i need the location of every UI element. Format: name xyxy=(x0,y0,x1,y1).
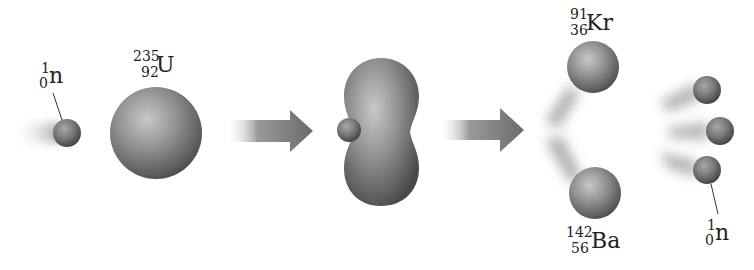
krypton-nucleus xyxy=(567,41,619,93)
product-trails xyxy=(545,82,708,184)
reaction-arrow-2-icon xyxy=(440,108,524,152)
reaction-arrow-1-icon xyxy=(228,110,313,152)
barium-atomic-number: 56 xyxy=(571,241,589,255)
barium-mass-number: 142 xyxy=(566,225,593,239)
barium-symbol: Ba xyxy=(591,230,620,252)
uranium-nucleus xyxy=(110,87,202,179)
uranium-label: 235 92 U xyxy=(133,48,183,80)
diagram-canvas xyxy=(0,0,754,270)
barium-nucleus xyxy=(569,167,621,219)
neutron-out-1 xyxy=(693,76,721,104)
neutron-in-label: 1 0 n xyxy=(38,60,68,92)
neutron-out-symbol: n xyxy=(715,222,729,244)
neutron-in-atomic-number: 0 xyxy=(39,76,48,90)
neutron-out-atomic-number: 0 xyxy=(705,233,714,247)
neutron-out-leader-line xyxy=(711,184,718,214)
fission-diagram: 1 0 n 235 92 U 91 36 Kr 142 56 Ba 1 0 n xyxy=(0,0,754,270)
krypton-label: 91 36 Kr xyxy=(569,6,619,38)
neutron-in-sphere xyxy=(53,119,81,147)
neutron-in-symbol: n xyxy=(49,65,63,87)
barium-label: 142 56 Ba xyxy=(566,224,626,258)
deformed-nucleus xyxy=(337,58,419,206)
neutron-out-2 xyxy=(706,117,734,145)
neutron-out-label: 1 0 n xyxy=(704,217,736,249)
krypton-symbol: Kr xyxy=(586,12,613,34)
uranium-symbol: U xyxy=(156,54,175,76)
neutron-in-leader-line xyxy=(53,93,62,120)
neutron-out-3 xyxy=(693,156,721,184)
